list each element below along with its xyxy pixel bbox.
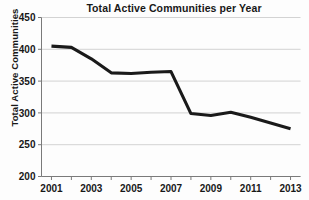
x-tick-label: 2009 xyxy=(200,183,223,194)
series-line xyxy=(51,46,290,129)
line-chart: Total Active Communities per Year Total … xyxy=(0,0,309,200)
y-axis-tick-labels: 200250300350400450 xyxy=(19,12,36,182)
y-axis-ticks xyxy=(38,18,42,177)
y-tick-label: 450 xyxy=(19,12,36,23)
x-axis-tick-labels: 2001200320052007200920112013 xyxy=(40,183,302,194)
gridlines xyxy=(42,18,301,177)
data-series xyxy=(51,46,290,129)
x-tick-label: 2011 xyxy=(240,183,262,194)
axis-lines xyxy=(42,18,301,177)
x-tick-label: 2003 xyxy=(80,183,103,194)
y-tick-label: 350 xyxy=(19,76,36,87)
plot-area: 200250300350400450 200120032005200720092… xyxy=(0,0,309,200)
y-tick-label: 300 xyxy=(19,108,36,119)
x-tick-label: 2013 xyxy=(279,183,302,194)
y-tick-label: 200 xyxy=(19,171,36,182)
x-tick-label: 2001 xyxy=(40,183,63,194)
x-tick-label: 2007 xyxy=(160,183,183,194)
y-tick-label: 250 xyxy=(19,139,36,150)
y-tick-label: 400 xyxy=(19,44,36,55)
x-tick-label: 2005 xyxy=(120,183,143,194)
x-axis-ticks xyxy=(51,177,290,181)
